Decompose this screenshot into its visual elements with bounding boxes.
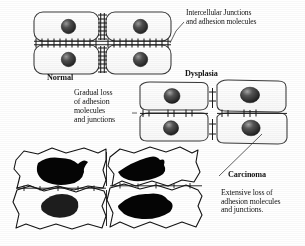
- panel-normal: [34, 12, 184, 74]
- normal-vertical-junction-top: [98, 13, 107, 40]
- normal-vertical-junction-bottom: [98, 46, 107, 73]
- label-intercellular-junctions: Intercellular Junctions and adhesion mol…: [186, 9, 256, 26]
- nucleus: [61, 19, 75, 33]
- nucleus: [133, 52, 147, 66]
- nucleus: [164, 89, 180, 104]
- panel-dysplasia: [132, 80, 287, 144]
- diagram-figure: Intercellular Junctions and adhesion mol…: [0, 0, 305, 246]
- label-dysplasia: Dysplasia: [185, 69, 218, 78]
- nucleus: [242, 120, 260, 136]
- nucleus: [133, 19, 147, 33]
- label-gradual-loss: Gradual loss of adhesion molecules and j…: [74, 89, 115, 124]
- nucleus: [61, 52, 75, 66]
- label-normal: Normal: [47, 73, 73, 82]
- nucleus: [163, 121, 178, 135]
- leader-line-intercellular: [170, 22, 184, 43]
- label-extensive-loss: Extensive loss of adhesion molecules and…: [221, 189, 280, 215]
- label-carcinoma: Carcinoma: [228, 170, 266, 179]
- dysplasia-vertical-junction: [209, 88, 216, 140]
- nucleus: [240, 87, 259, 103]
